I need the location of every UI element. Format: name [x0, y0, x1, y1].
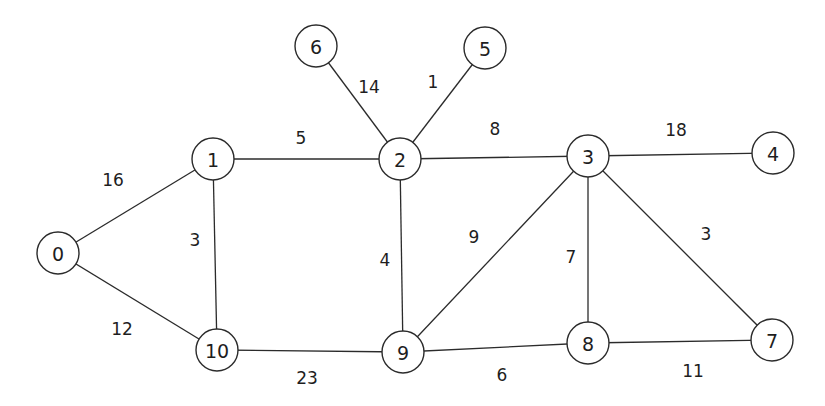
edge-2-9	[400, 159, 403, 352]
node-label: 4	[767, 143, 779, 165]
node-label: 1	[207, 149, 219, 171]
edge-10-9	[217, 350, 403, 352]
edge-weight-3-9: 9	[469, 227, 480, 247]
edge-2-3	[400, 156, 588, 159]
graph-node-1: 1	[192, 138, 234, 180]
graph-node-6: 6	[295, 25, 337, 67]
edge-0-10	[58, 253, 217, 350]
node-label: 8	[582, 333, 594, 355]
edge-weight-3-8: 7	[566, 247, 577, 267]
edge-weight-1-10: 3	[190, 230, 201, 250]
node-label: 9	[397, 342, 409, 364]
graph-node-4: 4	[752, 132, 794, 174]
node-label: 3	[582, 146, 594, 168]
edge-weight-3-7: 3	[701, 224, 712, 244]
edge-weight-2-5: 1	[428, 72, 439, 92]
edge-weight-2-3: 8	[490, 119, 501, 139]
edge-weight-1-2: 5	[296, 128, 307, 148]
node-label: 10	[205, 340, 229, 362]
edge-weight-8-7: 11	[682, 361, 704, 381]
edge-9-8	[403, 343, 588, 352]
edges-layer	[58, 46, 773, 352]
edge-3-9	[403, 156, 588, 352]
weighted-graph-diagram: 161253141841897323611 012345678910	[0, 0, 825, 406]
graph-node-10: 10	[196, 329, 238, 371]
edge-3-4	[588, 153, 773, 156]
graph-node-0: 0	[37, 232, 79, 274]
edge-8-7	[588, 340, 772, 343]
graph-node-7: 7	[751, 319, 793, 361]
graph-node-9: 9	[382, 331, 424, 373]
edge-weight-9-8: 6	[497, 365, 508, 385]
node-label: 5	[479, 38, 491, 60]
graph-node-2: 2	[379, 138, 421, 180]
graph-node-8: 8	[567, 322, 609, 364]
edge-weight-0-1: 16	[102, 170, 124, 190]
edge-weight-3-4: 18	[665, 120, 687, 140]
nodes-layer: 012345678910	[37, 25, 794, 373]
node-label: 7	[766, 330, 778, 352]
edge-weight-2-9: 4	[380, 250, 391, 270]
node-label: 2	[394, 149, 406, 171]
edge-1-10	[213, 159, 217, 350]
edge-weight-10-9: 23	[296, 368, 318, 388]
node-label: 6	[310, 36, 322, 58]
node-label: 0	[52, 243, 64, 265]
edge-weight-2-6: 14	[358, 77, 380, 97]
edge-weight-0-10: 12	[111, 319, 133, 339]
graph-node-5: 5	[464, 27, 506, 69]
edge-3-7	[588, 156, 772, 340]
graph-node-3: 3	[567, 135, 609, 177]
